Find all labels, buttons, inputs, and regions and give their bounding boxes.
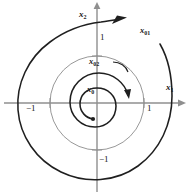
label-x01: x01	[140, 26, 150, 35]
y-axis-arrowhead	[94, 2, 101, 9]
trajectory-x02	[70, 73, 131, 127]
x-axis-label: x1	[166, 83, 174, 92]
x-tick-label-pos1: 1	[147, 104, 152, 113]
trajectory-x01-path	[18, 19, 172, 180]
y-tick-label-neg1: −1	[99, 155, 109, 164]
initial-point-x0-marker	[91, 117, 95, 121]
phase-portrait-figure: x1 x2 −1 1 1 −1 x01 x02 x0	[0, 0, 189, 196]
label-x02: x02	[89, 57, 99, 66]
phase-portrait-svg	[0, 0, 189, 196]
trajectory-x01	[18, 16, 172, 180]
axes-group	[4, 2, 186, 192]
label-x0: x0	[87, 85, 94, 94]
y-axis-label: x2	[79, 10, 87, 19]
x-axis-arrowhead	[178, 100, 186, 107]
x02-leader-line	[113, 62, 128, 72]
trajectory-x02-arrowhead	[124, 89, 131, 99]
y-tick-label-pos1: 1	[100, 33, 105, 42]
x-tick-label-neg1: −1	[26, 104, 36, 113]
trajectory-x02-path	[70, 73, 128, 127]
